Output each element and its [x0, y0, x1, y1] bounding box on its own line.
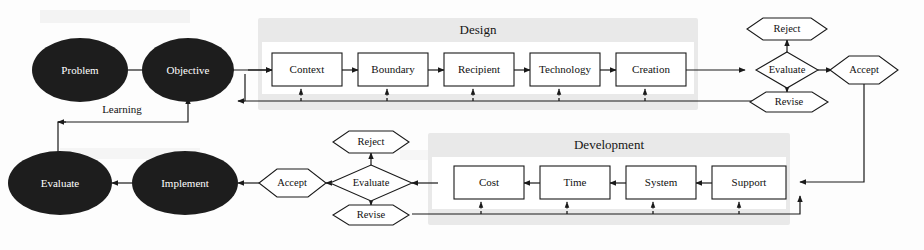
node-context: Context: [272, 53, 342, 86]
node-accept-development: Accept: [259, 169, 326, 197]
node-cost: Cost: [454, 166, 524, 199]
node-time: Time: [540, 166, 610, 199]
node-support: Support: [712, 166, 786, 199]
node-objective: Objective: [142, 38, 234, 102]
accept-development-label: Accept: [277, 177, 307, 188]
evaluate-development-label: Evaluate: [353, 177, 390, 188]
node-accept-design: Accept: [830, 56, 898, 84]
node-reject-development: Reject: [333, 131, 409, 153]
node-system: System: [626, 166, 696, 199]
node-evaluate-design: Evaluate: [756, 52, 818, 88]
node-creation: Creation: [616, 53, 686, 86]
node-boundary: Boundary: [358, 53, 428, 86]
problem-label: Problem: [61, 64, 99, 76]
revise-design-label: Revise: [775, 96, 804, 107]
recipient-label: Recipient: [458, 63, 500, 75]
support-label: Support: [732, 176, 767, 188]
node-revise-development: Revise: [333, 205, 409, 225]
node-evaluate-development: Evaluate: [330, 165, 412, 201]
node-implement: Implement: [132, 151, 238, 215]
design-panel-label: Design: [460, 22, 497, 37]
development-panel-label: Development: [574, 137, 644, 152]
node-recipient: Recipient: [444, 53, 514, 86]
accept-design-label: Accept: [849, 64, 879, 75]
creation-label: Creation: [632, 63, 670, 75]
node-revise-design: Revise: [750, 92, 828, 112]
system-label: System: [645, 176, 678, 188]
flowchart-diagram: ​ Design Development: [0, 0, 924, 250]
evaluate-bottom-label: Evaluate: [41, 177, 80, 189]
node-technology: Technology: [530, 53, 600, 86]
context-label: Context: [290, 63, 325, 75]
evaluate-design-label: Evaluate: [769, 64, 806, 75]
reject-development-label: Reject: [358, 136, 385, 147]
time-label: Time: [564, 176, 587, 188]
boundary-label: Boundary: [371, 63, 415, 75]
edge-label-learning: Learning: [102, 103, 142, 115]
implement-label: Implement: [161, 177, 209, 189]
reject-design-label: Reject: [774, 23, 801, 34]
diagram-canvas: ​ Design Development: [0, 0, 924, 250]
objective-label: Objective: [167, 64, 210, 76]
technology-label: Technology: [539, 63, 591, 75]
cost-label: Cost: [479, 176, 499, 188]
revise-development-label: Revise: [357, 209, 386, 220]
node-evaluate-bottom: Evaluate: [8, 151, 112, 215]
node-reject-design: Reject: [747, 18, 827, 40]
node-problem: Problem: [32, 38, 128, 102]
